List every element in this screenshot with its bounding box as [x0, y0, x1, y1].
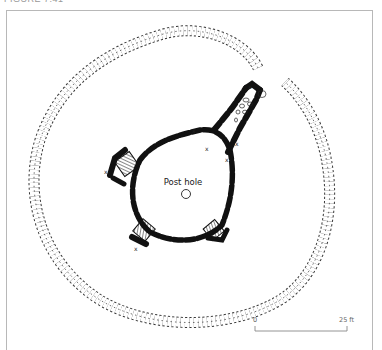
post-hole-marker [182, 190, 191, 199]
x-marker: x [225, 156, 229, 163]
x-marker: x [104, 168, 108, 175]
entrance-passage [214, 84, 266, 152]
x-marker: x [192, 127, 196, 134]
x-marker: x [134, 245, 138, 252]
scale-end-label: 25 ft [339, 316, 355, 324]
scale-start-label: 0 [253, 316, 257, 324]
post-hole-label: Post hole [164, 177, 203, 187]
scale-bar: 0 25 ft [253, 316, 355, 331]
buttress-southwest [132, 219, 155, 244]
x-marker: x [205, 145, 209, 152]
x-marker: x [248, 83, 252, 90]
x-marker: x [235, 140, 239, 147]
